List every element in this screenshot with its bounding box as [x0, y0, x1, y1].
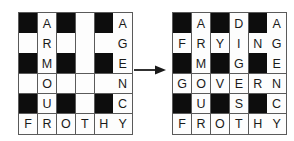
- crossword-cell[interactable]: R: [192, 114, 210, 134]
- crossword-cell[interactable]: N: [113, 74, 131, 94]
- crossword-cell[interactable]: Y: [211, 33, 229, 53]
- crossword-letter: H: [253, 118, 262, 131]
- crossword-cell[interactable]: I: [230, 33, 248, 53]
- crossword-block-cell: [173, 13, 191, 33]
- arrow-right-icon: [133, 63, 167, 77]
- crossword-cell[interactable]: [76, 13, 94, 33]
- crossword-cell[interactable]: G: [173, 74, 191, 94]
- crossword-cell[interactable]: A: [267, 13, 285, 33]
- crossword-letter: T: [81, 118, 89, 131]
- crossword-block-cell: [211, 13, 229, 33]
- crossword-letter: C: [118, 98, 127, 111]
- crossword-letter: U: [197, 98, 206, 111]
- crossword-letter: N: [118, 78, 127, 91]
- crossword-letter: A: [43, 17, 51, 30]
- crossword-letter: Y: [272, 118, 280, 131]
- crossword-letter: C: [272, 98, 281, 111]
- crossword-cell[interactable]: [76, 74, 94, 94]
- crossword-cell[interactable]: E: [113, 53, 131, 73]
- crossword-cell[interactable]: [76, 94, 94, 114]
- crossword-cell[interactable]: C: [113, 94, 131, 114]
- crossword-letter: D: [234, 17, 243, 30]
- crossword-block-cell: [211, 94, 229, 114]
- crossword-block-cell: [173, 53, 191, 73]
- crossword-cell[interactable]: N: [267, 74, 285, 94]
- crossword-cell[interactable]: R: [249, 74, 267, 94]
- crossword-cell[interactable]: C: [267, 94, 285, 114]
- crossword-cell[interactable]: H: [249, 114, 267, 134]
- crossword-block-cell: [57, 94, 75, 114]
- crossword-cell[interactable]: U: [192, 94, 210, 114]
- crossword-cell[interactable]: R: [192, 33, 210, 53]
- crossword-cell[interactable]: Y: [267, 114, 285, 134]
- crossword-cell[interactable]: F: [173, 114, 191, 134]
- crossword-cell[interactable]: [76, 33, 94, 53]
- crossword-cell[interactable]: G: [267, 33, 285, 53]
- crossword-letter: O: [215, 118, 225, 131]
- crossword-letter: R: [253, 78, 262, 91]
- crossword-block-cell: [57, 53, 75, 73]
- crossword-letter: G: [118, 37, 128, 50]
- crossword-cell[interactable]: O: [192, 74, 210, 94]
- crossword-cell[interactable]: T: [76, 114, 94, 134]
- crossword-block-cell: [95, 53, 113, 73]
- crossword-cell[interactable]: U: [38, 94, 56, 114]
- crossword-block-cell: [249, 53, 267, 73]
- crossword-cell[interactable]: O: [38, 74, 56, 94]
- crossword-letter: O: [61, 118, 71, 131]
- crossword-block-cell: [19, 13, 37, 33]
- crossword-letter: F: [24, 118, 32, 131]
- crossword-letter: H: [99, 118, 108, 131]
- crossword-cell[interactable]: E: [230, 74, 248, 94]
- crossword-cell[interactable]: [57, 74, 75, 94]
- crossword-letter: R: [43, 118, 52, 131]
- crossword-cell[interactable]: G: [113, 33, 131, 53]
- crossword-cell[interactable]: T: [230, 114, 248, 134]
- crossword-letter: O: [196, 78, 206, 91]
- crossword-cell[interactable]: A: [192, 13, 210, 33]
- crossword-block-cell: [95, 94, 113, 114]
- crossword-letter: Y: [216, 37, 224, 50]
- crossword-letter: I: [237, 37, 240, 50]
- crossword-block-cell: [173, 94, 191, 114]
- crossword-cell[interactable]: [57, 33, 75, 53]
- crossword-cell[interactable]: N: [249, 33, 267, 53]
- crossword-cell[interactable]: D: [230, 13, 248, 33]
- crossword-letter: R: [43, 37, 52, 50]
- crossword-cell[interactable]: A: [113, 13, 131, 33]
- crossword-cell[interactable]: R: [38, 33, 56, 53]
- crossword-cell[interactable]: F: [19, 114, 37, 134]
- crossword-block-cell: [19, 53, 37, 73]
- crossword-letter: G: [177, 78, 187, 91]
- crossword-letter: V: [216, 78, 224, 91]
- crossword-cell[interactable]: [19, 33, 37, 53]
- crossword-cell[interactable]: F: [173, 33, 191, 53]
- crossword-block-cell: [249, 94, 267, 114]
- crossword-letter: O: [42, 78, 52, 91]
- crossword-block-cell: [211, 53, 229, 73]
- crossword-letter: N: [272, 78, 281, 91]
- crossword-cell[interactable]: R: [38, 114, 56, 134]
- crossword-letter: G: [272, 37, 282, 50]
- crossword-cell[interactable]: Y: [113, 114, 131, 134]
- crossword-cell[interactable]: O: [211, 114, 229, 134]
- crossword-cell[interactable]: M: [192, 53, 210, 73]
- crossword-cell[interactable]: M: [38, 53, 56, 73]
- crossword-cell[interactable]: [95, 74, 113, 94]
- crossword-cell[interactable]: S: [230, 94, 248, 114]
- crossword-block-cell: [249, 13, 267, 33]
- crossword-cell[interactable]: G: [230, 53, 248, 73]
- crossword-letter: M: [42, 57, 52, 70]
- crossword-letter: Y: [118, 118, 126, 131]
- crossword-cell[interactable]: H: [95, 114, 113, 134]
- crossword-grid-right: ADAFRYINGMGEGOVERNUSCFROTHY: [172, 12, 287, 135]
- crossword-cell[interactable]: [76, 53, 94, 73]
- crossword-cell[interactable]: A: [38, 13, 56, 33]
- crossword-cell[interactable]: [95, 33, 113, 53]
- crossword-cell[interactable]: O: [57, 114, 75, 134]
- crossword-cell[interactable]: E: [267, 53, 285, 73]
- crossword-letter: M: [196, 57, 206, 70]
- crossword-cell[interactable]: V: [211, 74, 229, 94]
- crossword-letter: A: [197, 17, 205, 30]
- crossword-cell[interactable]: [19, 74, 37, 94]
